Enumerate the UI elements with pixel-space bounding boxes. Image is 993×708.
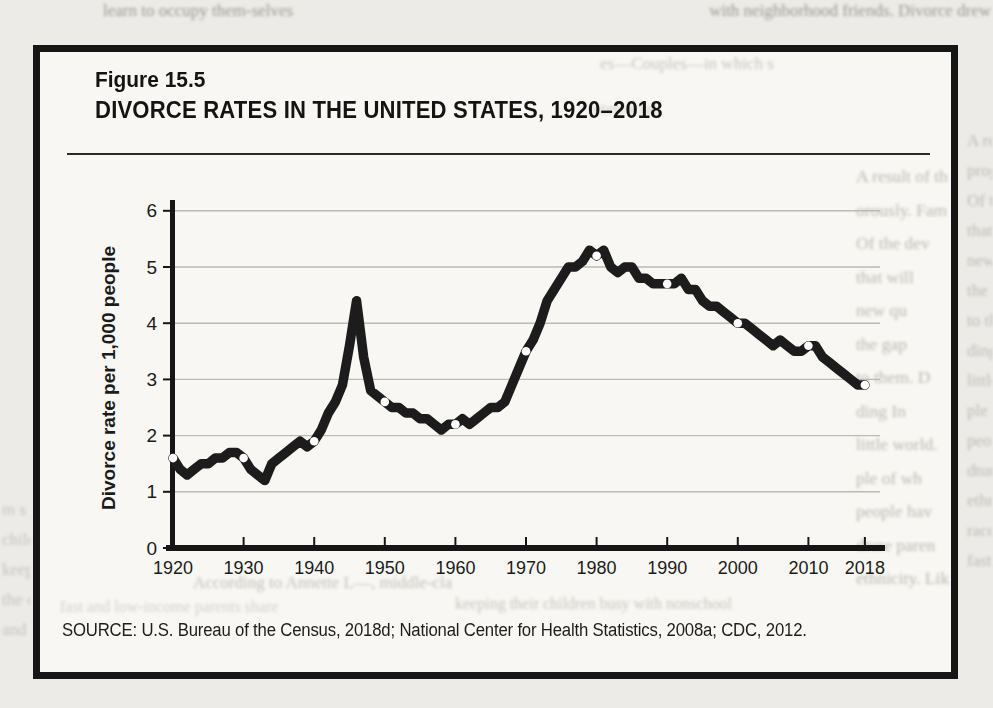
- bleed-text-line: the g: [967, 276, 992, 306]
- bleed-text-line: prog: [967, 156, 992, 186]
- x-tick-label-1980: 1980: [577, 558, 617, 578]
- page-bleed-top-right: with neighborhood friends. Divorce drew: [709, 1, 991, 21]
- page-bleed-top-left: learn to occupy them-selves: [103, 1, 293, 21]
- x-tick-label-1920: 1920: [153, 558, 193, 578]
- scanned-textbook-page: { "page": { "bleed_top_left": "learn to …: [0, 0, 993, 708]
- bleed-text-line: m s: [2, 495, 30, 525]
- x-tick-label-1940: 1940: [294, 558, 334, 578]
- bleed-text-line: peop: [967, 426, 992, 456]
- y-tick-label-5: 5: [146, 257, 157, 278]
- data-marker-1950: [381, 398, 390, 407]
- data-marker-1990: [663, 280, 672, 289]
- data-marker-1940: [310, 437, 319, 446]
- bleed-text-line: and: [2, 615, 30, 645]
- x-axis-line: [166, 545, 885, 551]
- data-marker-2010: [804, 341, 813, 350]
- y-axis-title: Divorce rate per 1,000 people: [98, 246, 119, 510]
- x-tick-label-1990: 1990: [647, 558, 687, 578]
- divorce-rate-line-chart: 0123456192019301940195019601970198019902…: [95, 188, 903, 592]
- y-tick-label-3: 3: [146, 369, 157, 390]
- bleed-text-line: fast: [967, 546, 992, 576]
- page-bleed-top-line: learn to occupy them-selves with neighbo…: [103, 1, 991, 21]
- y-tick-label-2: 2: [146, 425, 157, 446]
- figure-number-label: Figure 15.5: [95, 67, 205, 93]
- bleed-text-line: that: [967, 216, 992, 246]
- bleed-text-line: the c: [2, 585, 30, 615]
- page-bleed-right-margin: A reprogOf tthatnewthe gto thdinglittlep…: [967, 126, 992, 576]
- bleed-text-line: to th: [967, 306, 992, 336]
- bleed-text-line: new: [967, 246, 992, 276]
- bleed-text-line: little: [967, 366, 992, 396]
- data-marker-1970: [522, 347, 531, 356]
- x-tick-label-1930: 1930: [224, 558, 264, 578]
- x-tick-label-2000: 2000: [718, 558, 758, 578]
- x-tick-label-1970: 1970: [506, 558, 546, 578]
- x-tick-label-1950: 1950: [365, 558, 405, 578]
- data-marker-1930: [239, 454, 248, 463]
- bleed-text-line: child: [2, 525, 30, 555]
- x-tick-label-2018: 2018: [845, 558, 885, 578]
- data-marker-2000: [734, 319, 743, 328]
- bleed-text-line: A re: [967, 126, 992, 156]
- figure-title: DIVORCE RATES IN THE UNITED STATES, 1920…: [95, 96, 663, 124]
- title-divider-rule: [67, 153, 930, 155]
- data-marker-1960: [451, 420, 460, 429]
- data-marker-2018: [861, 381, 870, 390]
- page-bleed-left-margin: m schildkeepthe cand: [2, 495, 30, 645]
- y-tick-label-1: 1: [146, 481, 157, 502]
- y-tick-label-0: 0: [146, 538, 157, 559]
- y-tick-label-6: 6: [146, 200, 157, 221]
- bleed-text-line: ple o: [967, 396, 992, 426]
- x-tick-label-1960: 1960: [435, 558, 475, 578]
- data-marker-1920: [169, 454, 178, 463]
- data-marker-1980: [592, 251, 601, 260]
- figure-source-credit: SOURCE: U.S. Bureau of the Census, 2018d…: [62, 620, 807, 641]
- divorce-rate-series-line: [173, 250, 865, 480]
- bleed-text-line: Of t: [967, 186, 992, 216]
- bleed-text-line: dtur: [967, 456, 992, 486]
- x-tick-label-2010: 2010: [788, 558, 828, 578]
- y-axis-line: [170, 200, 175, 551]
- bleed-text-line: race: [967, 516, 992, 546]
- bleed-text-line: ding: [967, 336, 992, 366]
- bleed-text-line: keep: [2, 555, 30, 585]
- y-tick-label-4: 4: [146, 313, 157, 334]
- divorce-rate-chart-area: 0123456192019301940195019601970198019902…: [95, 188, 903, 592]
- bleed-text-line: ethn: [967, 486, 992, 516]
